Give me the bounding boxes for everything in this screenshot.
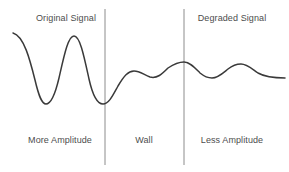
degraded-signal-label: Degraded Signal: [198, 13, 267, 24]
diagram-canvas: [0, 0, 289, 172]
less-amplitude-label: Less Amplitude: [201, 135, 263, 146]
signal-attenuation-diagram: Original Signal Degraded Signal More Amp…: [0, 0, 289, 172]
more-amplitude-label: More Amplitude: [28, 135, 92, 146]
original-signal-label: Original Signal: [36, 13, 96, 24]
wall-label: Wall: [135, 135, 153, 146]
signal-waveform-path: [13, 33, 285, 104]
